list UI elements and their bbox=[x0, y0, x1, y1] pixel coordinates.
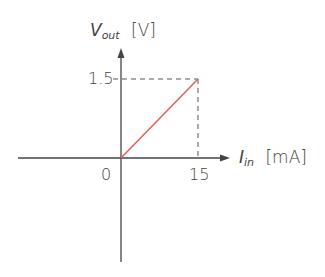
plot-area bbox=[0, 0, 325, 277]
x-axis-arrow-icon bbox=[220, 155, 230, 162]
y-axis-label: Vout [V] bbox=[90, 22, 156, 39]
series-line bbox=[121, 79, 198, 158]
y-axis-arrow-icon bbox=[118, 48, 125, 58]
x-tick-label: 15 bbox=[189, 167, 209, 183]
x-axis-label: Iin [mA] bbox=[239, 149, 307, 166]
origin-label: 0 bbox=[101, 167, 111, 183]
chart: Vout [V] 1.5 0 15 Iin [mA] bbox=[0, 0, 325, 277]
y-tick-label: 1.5 bbox=[88, 71, 113, 87]
